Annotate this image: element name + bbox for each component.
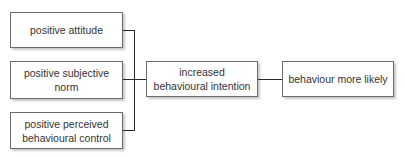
box-label: positive attitude bbox=[30, 23, 103, 37]
box-positive-perceived-behavioural-control: positive perceived behavioural control bbox=[10, 112, 123, 149]
connector-vertical-bus bbox=[134, 30, 135, 131]
box-label: increased behavioural intention bbox=[151, 65, 253, 93]
box-label: positive perceived behavioural control bbox=[15, 117, 118, 145]
box-positive-subjective-norm: positive subjective norm bbox=[10, 61, 123, 99]
box-label: behaviour more likely bbox=[288, 72, 387, 86]
box-behaviour-more-likely: behaviour more likely bbox=[282, 61, 394, 97]
box-positive-attitude: positive attitude bbox=[10, 12, 123, 48]
connector-intention-to-behaviour bbox=[258, 79, 282, 80]
box-label: positive subjective norm bbox=[19, 66, 115, 94]
box-increased-behavioural-intention: increased behavioural intention bbox=[146, 61, 258, 97]
connector-bus-to-intention bbox=[134, 79, 146, 80]
